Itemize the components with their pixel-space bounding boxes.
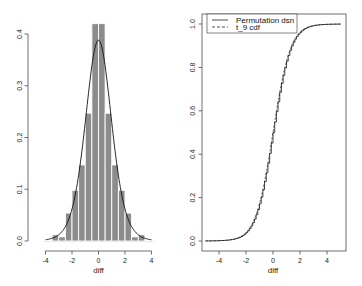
- y-tick-label: 0.2: [189, 193, 196, 203]
- x-tick-label: 0: [271, 257, 275, 264]
- y-tick-label: 0.4: [189, 149, 196, 159]
- legend: Permutation dsnt_9 cdf: [207, 14, 297, 33]
- y-tick-label: 0.0: [189, 236, 196, 246]
- x-tick-label: -4: [216, 257, 222, 264]
- x-axis-title: diff: [268, 266, 279, 275]
- x-tick-label: -2: [243, 257, 249, 264]
- y-tick-label: 1.0: [189, 19, 196, 29]
- x-tick-label: 4: [325, 257, 329, 264]
- permutation-cdf-line: [206, 24, 341, 241]
- y-tick-label: 0.6: [189, 106, 196, 116]
- y-tick-label: 0.8: [189, 62, 196, 72]
- x-tick-label: 2: [298, 257, 302, 264]
- x-axis: -4-2024: [216, 251, 329, 264]
- cdf-plot: 0.00.20.40.60.81.0-4-2024diffPermutation…: [0, 0, 362, 286]
- y-axis: 0.00.20.40.60.81.0: [189, 19, 202, 246]
- legend-label: t_9 cdf: [236, 23, 261, 32]
